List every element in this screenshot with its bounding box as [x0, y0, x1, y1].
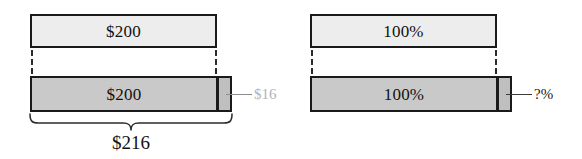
dashed-connector-right-money [215, 50, 217, 74]
total-bar-money-label: $200 [107, 86, 142, 103]
total-bar-percent: 100% [310, 76, 498, 112]
dashed-connector-left-money [31, 50, 33, 74]
brace-glyph-icon [28, 113, 234, 131]
base-bar-percent: 100% [310, 14, 497, 48]
panel-percent: 100% 100% ?% [291, 0, 582, 159]
dashed-connector-left-percent [311, 50, 313, 74]
base-bar-percent-label: 100% [383, 23, 423, 40]
base-bar-money: $200 [30, 14, 217, 48]
total-bar-money: $200 [30, 76, 218, 112]
leader-line-money [226, 94, 252, 95]
panel-money: $200 $200 $16 $216 [0, 0, 291, 159]
extra-segment-percent-callout: ?% [534, 87, 553, 102]
leader-line-percent [506, 94, 532, 95]
base-bar-money-label: $200 [106, 23, 141, 40]
tape-diagram-figure: $200 $200 $16 $216 100% 100% ?% [0, 0, 582, 159]
total-brace-money-label: $216 [30, 133, 232, 152]
dashed-connector-right-percent [495, 50, 497, 74]
total-brace-money [28, 113, 234, 131]
extra-segment-money-callout: $16 [254, 87, 277, 102]
total-bar-percent-label: 100% [384, 86, 424, 103]
